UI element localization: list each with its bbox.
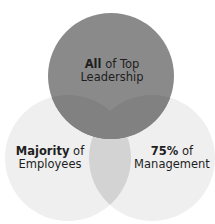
- label-employees: Majority of Employees: [16, 145, 84, 170]
- label-top-leadership: All of Top Leadership: [80, 58, 143, 83]
- label-management-line2: Management: [134, 158, 210, 171]
- label-employees-rest: of: [69, 144, 84, 158]
- label-top-line2: Leadership: [80, 71, 143, 84]
- label-management: 75% of Management: [134, 145, 210, 170]
- label-top-rest: of Top: [101, 57, 139, 71]
- label-management-rest: of: [178, 144, 193, 158]
- label-top-bold: All: [85, 57, 102, 71]
- label-employees-bold: Majority: [16, 144, 70, 158]
- label-employees-line2: Employees: [16, 158, 84, 171]
- label-management-bold: 75%: [151, 144, 179, 158]
- venn-diagram: [0, 0, 215, 224]
